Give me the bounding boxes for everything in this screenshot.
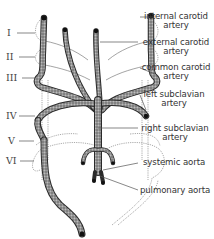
label-line-2: artery (139, 47, 213, 56)
label-left-subclavian: left subclavian artery (137, 90, 211, 108)
label-line-2: artery (137, 99, 211, 108)
label-line-2: artery (139, 72, 213, 81)
arch-label-6: VI (6, 155, 17, 166)
label-line-2: artery (139, 21, 213, 30)
label-internal-carotid: internal carotid artery (139, 12, 213, 30)
aortic-arches-diagram (0, 0, 214, 239)
arch-label-2: II (6, 51, 14, 62)
label-external-carotid: external carotid artery (139, 38, 213, 56)
label-common-carotid: common carotid artery (139, 63, 213, 81)
arch-label-3: III (6, 72, 17, 83)
arch-label-4: IV (6, 110, 17, 121)
arch-label-1: I (7, 27, 11, 38)
arch-label-5: V (8, 135, 15, 146)
label-pulmonary-aorta: pulmonary aorta (137, 186, 213, 195)
label-systemic-aorta: systemic aorta (137, 158, 211, 167)
label-line-2: artery (137, 133, 213, 142)
label-right-subclavian: right subclavian artery (137, 124, 213, 142)
